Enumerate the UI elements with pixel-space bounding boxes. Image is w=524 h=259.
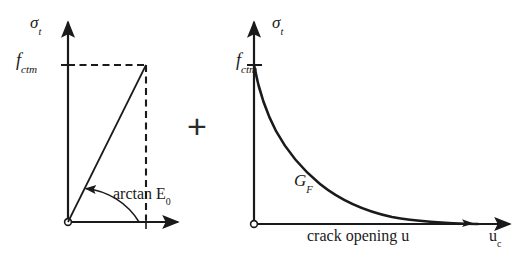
right-x-axis-label: crack opening u bbox=[307, 228, 409, 244]
right-x-axis-end-subscript: c bbox=[497, 238, 501, 249]
figure-tensile-softening-model: σt fctm arctan E0 + σt fctm GF crack ope… bbox=[0, 0, 524, 259]
right-y-axis-label: σt bbox=[272, 14, 283, 35]
left-slope-annotation: arctan E0 bbox=[113, 186, 171, 205]
left-slope-annotation-text: arctan E bbox=[113, 185, 166, 202]
right-fracture-energy-symbol: G bbox=[294, 171, 306, 190]
left-slope-annotation-subscript: 0 bbox=[166, 196, 171, 207]
right-origin-marker bbox=[251, 221, 258, 228]
right-panel-data bbox=[254, 65, 478, 227]
right-fracture-energy-label: GF bbox=[294, 172, 313, 193]
right-x-axis-end-symbol: u bbox=[489, 227, 497, 244]
right-fracture-energy-subscript: F bbox=[306, 184, 312, 195]
right-peak-label: fctm bbox=[236, 51, 257, 73]
left-peak-label: fctm bbox=[16, 51, 37, 73]
right-y-axis-label-subscript: t bbox=[280, 26, 283, 37]
right-panel-axes bbox=[247, 22, 510, 227]
left-y-axis-label-subscript: t bbox=[38, 26, 41, 37]
plus-operator: + bbox=[187, 109, 207, 143]
right-peak-label-subscript: ctm bbox=[241, 63, 257, 75]
right-softening-curve bbox=[254, 65, 478, 224]
left-y-axis-label: σt bbox=[30, 14, 41, 35]
left-peak-label-subscript: ctm bbox=[21, 63, 37, 75]
figure-graphics bbox=[0, 0, 524, 259]
right-x-axis-end-label: uc bbox=[489, 228, 501, 247]
